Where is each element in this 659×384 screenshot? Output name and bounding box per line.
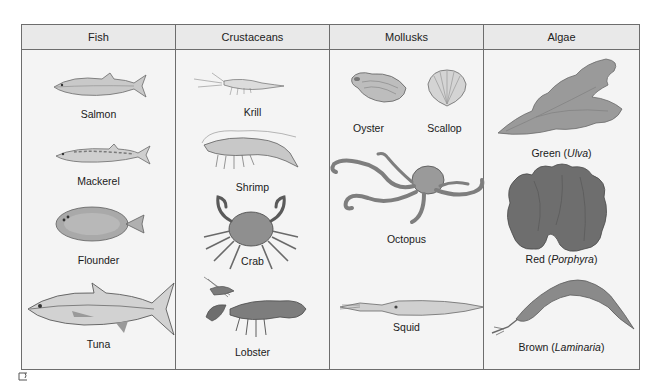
label-tuna: Tuna bbox=[22, 338, 175, 350]
column-crustaceans: Crustaceans Krill Shrimp Crab Lobster bbox=[176, 25, 330, 369]
column-header-mollusks: Mollusks bbox=[330, 25, 483, 50]
brown-algae-icon bbox=[490, 273, 638, 337]
label-green-ulva: Green (Ulva) bbox=[484, 147, 639, 159]
label-shrimp: Shrimp bbox=[176, 181, 329, 193]
salmon-icon bbox=[52, 71, 148, 101]
red-algae-icon bbox=[504, 161, 612, 257]
label-krill: Krill bbox=[176, 106, 329, 118]
flounder-icon bbox=[52, 203, 147, 247]
column-mollusks: Mollusks Oyster Scallop Octopus Squi bbox=[330, 25, 484, 369]
column-header-fish: Fish bbox=[22, 25, 175, 50]
label-crab: Crab bbox=[176, 255, 329, 267]
label-salmon: Salmon bbox=[22, 108, 175, 120]
octopus-icon bbox=[328, 150, 488, 228]
column-fish: Fish Salmon Mackerel Flounder bbox=[22, 25, 176, 369]
label-squid: Squid bbox=[330, 321, 483, 333]
column-header-crustaceans: Crustaceans bbox=[176, 25, 329, 50]
column-algae: Algae Green (Ulva) Red (Porphyra) Brown … bbox=[484, 25, 639, 369]
label-brown-laminaria: Brown (Laminaria) bbox=[484, 341, 639, 353]
label-red-porphyra: Red (Porphyra) bbox=[484, 253, 639, 265]
shrimp-icon bbox=[198, 127, 306, 175]
label-lobster: Lobster bbox=[176, 346, 329, 358]
krill-icon bbox=[192, 71, 292, 97]
label-mackerel: Mackerel bbox=[22, 175, 175, 187]
seafood-categories-table: Fish Salmon Mackerel Flounder bbox=[21, 24, 640, 370]
tuna-icon bbox=[24, 279, 180, 339]
scallop-icon bbox=[424, 68, 470, 108]
oyster-icon bbox=[348, 68, 410, 106]
label-flounder: Flounder bbox=[22, 254, 175, 266]
lobster-icon bbox=[200, 275, 312, 345]
mackerel-icon bbox=[54, 143, 152, 167]
green-algae-icon bbox=[496, 57, 626, 141]
page-curl-icon bbox=[17, 370, 29, 382]
column-header-algae: Algae bbox=[484, 25, 639, 50]
squid-icon bbox=[338, 295, 488, 321]
label-octopus: Octopus bbox=[330, 233, 483, 245]
